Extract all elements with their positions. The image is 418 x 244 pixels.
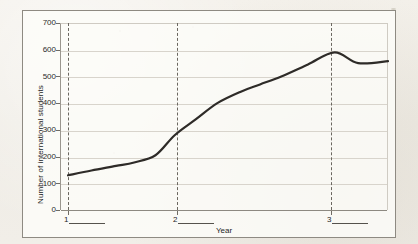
data-series-line [0, 0, 418, 244]
x-axis-blank-3-rule[interactable] [332, 216, 368, 224]
x-axis-blank-2-number: 2 [173, 215, 177, 224]
x-axis-blank-2-rule[interactable] [178, 216, 214, 224]
x-axis-title: Year [194, 226, 254, 235]
x-axis-blank-3[interactable]: 3 [327, 215, 368, 224]
x-axis-blank-1[interactable]: 1 [64, 215, 105, 224]
x-axis-blank-1-number: 1 [64, 215, 68, 224]
line-chart: Number of international students 700 600… [0, 0, 418, 244]
x-axis-blank-2[interactable]: 2 [173, 215, 214, 224]
x-axis-blank-3-number: 3 [327, 215, 331, 224]
x-axis-blank-1-rule[interactable] [69, 216, 105, 224]
